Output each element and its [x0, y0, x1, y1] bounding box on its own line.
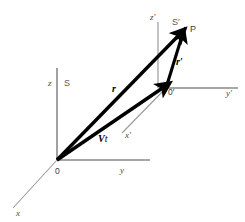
axis-label-x: x — [15, 208, 20, 218]
vectors-group — [57, 34, 182, 160]
vector-label-vt: Vt — [98, 133, 108, 144]
point-label-P: P — [190, 24, 196, 34]
axis-label-y: y — [119, 165, 124, 175]
vector-label-rprime: r′ — [176, 56, 183, 67]
point-labels-group: P — [190, 24, 196, 34]
relative-motion-diagram: z y x z′ y′ x′ S S′ 0 0′ P r r′ Vt — [0, 0, 245, 222]
axis-label-xprime: x′ — [124, 130, 132, 140]
frame-label-Sprime: S′ — [172, 17, 180, 27]
axis-x-line — [13, 160, 57, 208]
vector-label-vt-t: t — [105, 133, 108, 144]
vector-vt-line — [57, 87, 164, 160]
origin-label-Oprime: 0′ — [168, 87, 175, 97]
vector-r-line — [57, 34, 180, 160]
frame-label-S: S — [64, 78, 70, 88]
axis-label-zprime: z′ — [149, 12, 157, 22]
origin-label-O: 0 — [55, 166, 60, 176]
vector-label-r: r — [112, 83, 116, 94]
axis-label-z: z — [47, 78, 52, 88]
diagram-canvas: z y x z′ y′ x′ S S′ 0 0′ P r r′ Vt — [0, 0, 245, 222]
vector-labels-group: r r′ Vt — [98, 56, 183, 144]
axis-label-yprime: y′ — [225, 88, 233, 98]
